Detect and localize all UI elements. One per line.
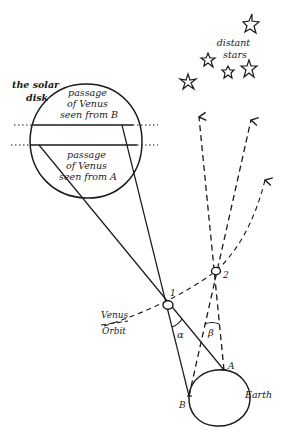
label-beta: β	[207, 327, 214, 338]
star-icon	[241, 60, 257, 77]
venus-position-2	[212, 267, 221, 274]
label-distant-stars: distant stars	[217, 37, 253, 60]
distant-stars	[180, 14, 259, 89]
venus-position-1	[163, 301, 173, 309]
label-passage-a: passage of Venus seen from A	[59, 149, 117, 182]
star-icon	[243, 14, 259, 33]
star-icon	[201, 53, 215, 67]
label-venus-orbit: Venus Orbit	[101, 310, 131, 336]
sight-lines-dashed	[189, 117, 251, 396]
star-icon	[222, 66, 234, 78]
earth	[187, 370, 250, 426]
label-passage-b: passage of Venus seen from B	[60, 87, 118, 120]
transit-diagram: the solar disk passage of Venus seen fro…	[0, 0, 283, 434]
label-earth: Earth	[244, 389, 272, 400]
label-solar-disk: the solar disk	[12, 79, 62, 103]
label-alpha: α	[177, 329, 184, 340]
label-point-b: B	[178, 400, 186, 410]
label-venus-1: 1	[170, 288, 176, 298]
angle-alpha-arc	[172, 319, 182, 327]
label-venus-2: 2	[222, 270, 229, 280]
label-point-a: A	[227, 361, 235, 371]
star-icon	[180, 74, 196, 89]
angle-beta-arc	[205, 323, 219, 325]
